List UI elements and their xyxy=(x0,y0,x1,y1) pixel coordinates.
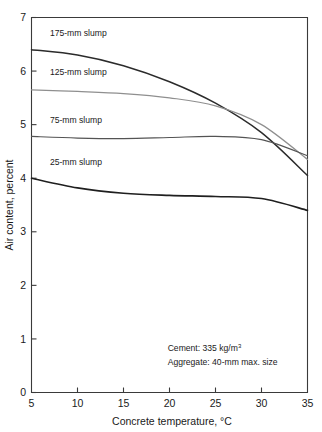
mix-design-annotations: Cement: 335 kg/m3Aggregate: 40-mm max. s… xyxy=(168,343,278,367)
y-tick-label: 3 xyxy=(20,225,26,237)
x-tick-label: 15 xyxy=(118,397,130,409)
x-axis-tick-labels: 5101520253035 xyxy=(29,397,314,409)
y-tick-label: 7 xyxy=(20,11,26,23)
y-tick-label: 1 xyxy=(20,333,26,345)
x-tick-label: 20 xyxy=(164,397,176,409)
series-label: 75-mm slump xyxy=(50,115,102,125)
x-axis-title: Concrete temperature, °C xyxy=(112,415,232,427)
y-axis-title: Air content, percent xyxy=(3,159,15,250)
x-tick-label: 25 xyxy=(210,397,222,409)
series-curve xyxy=(32,136,308,155)
series-inline-labels: 175-mm slump125-mm slump75-mm slump25-mm… xyxy=(50,28,107,167)
y-axis-ticks xyxy=(32,18,37,393)
annotation-text: Cement: 335 kg/m3 xyxy=(168,343,242,353)
y-tick-label: 4 xyxy=(20,172,26,184)
y-tick-label: 0 xyxy=(20,386,26,398)
x-tick-label: 35 xyxy=(302,397,314,409)
x-axis-ticks xyxy=(78,388,262,393)
series-curve xyxy=(32,178,308,210)
y-tick-label: 5 xyxy=(20,118,26,130)
y-axis-tick-labels: 01234567 xyxy=(20,11,26,398)
chart-canvas: 01234567 5101520253035 175-mm slump125-m… xyxy=(0,0,322,432)
x-tick-label: 10 xyxy=(72,397,84,409)
x-tick-label: 5 xyxy=(29,397,35,409)
x-tick-label: 30 xyxy=(256,397,268,409)
annotation-text: Aggregate: 40-mm max. size xyxy=(168,357,278,367)
air-content-vs-temperature-chart: 01234567 5101520253035 175-mm slump125-m… xyxy=(0,0,322,432)
y-tick-label: 2 xyxy=(20,279,26,291)
series-label: 25-mm slump xyxy=(50,157,102,167)
series-label: 175-mm slump xyxy=(50,28,107,38)
series-label: 125-mm slump xyxy=(50,67,107,77)
y-tick-label: 6 xyxy=(20,65,26,77)
